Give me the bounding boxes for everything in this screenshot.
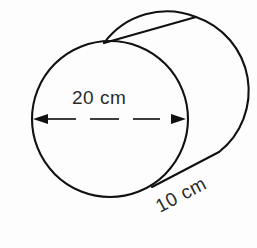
dim-arrow-right [171,114,186,124]
back-circle-arc [104,11,249,152]
diameter-dimension-line [33,114,186,124]
top-tangent-line [104,17,196,43]
diameter-label: 20 cm [72,87,126,108]
cylinder-figure: 20 cm 10 cm [0,0,257,248]
dim-arrow-left [33,114,48,124]
cylinder-diagram: 20 cm 10 cm [0,0,257,248]
